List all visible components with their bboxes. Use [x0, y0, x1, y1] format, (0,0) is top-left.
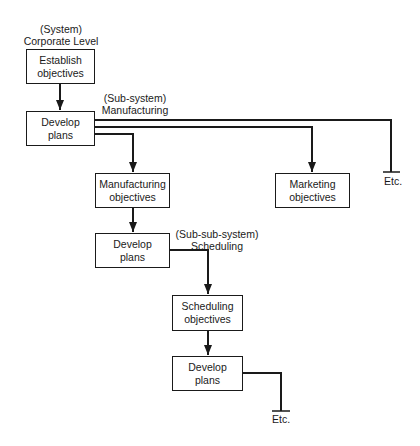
node-develop-plans-scheduling: Develop plans — [172, 356, 243, 391]
node-marketing-objectives: Marketing objectives — [275, 173, 350, 208]
node-establish-objectives: Establish objectives — [26, 49, 95, 84]
node-develop-plans-manufacturing: Develop plans — [95, 233, 170, 268]
node-manufacturing-objectives: Manufacturing objectives — [95, 173, 170, 208]
line-corporate-to-manufacturing — [95, 134, 133, 172]
subsystem-level-label: (Sub-system) Manufacturing — [100, 92, 170, 116]
etc-label-scheduling: Etc. — [272, 413, 290, 425]
subsubsystem-tag: (Sub-sub-system) — [172, 228, 262, 240]
etc-label-corporate: Etc. — [384, 175, 402, 187]
node-scheduling-objectives: Scheduling objectives — [172, 295, 243, 331]
system-level-label: (System) Corporate Level — [22, 23, 100, 47]
line-manufacturing-to-scheduling — [170, 250, 208, 294]
system-name: Corporate Level — [22, 35, 100, 47]
subsystem-name: Manufacturing — [100, 104, 170, 116]
subsystem-tag: (Sub-system) — [100, 92, 170, 104]
subsubsystem-name: Scheduling — [172, 240, 262, 252]
node-develop-plans-corporate: Develop plans — [26, 111, 95, 146]
line-scheduling-to-etc — [243, 373, 281, 411]
subsubsystem-level-label: (Sub-sub-system) Scheduling — [172, 228, 262, 252]
system-tag: (System) — [22, 23, 100, 35]
